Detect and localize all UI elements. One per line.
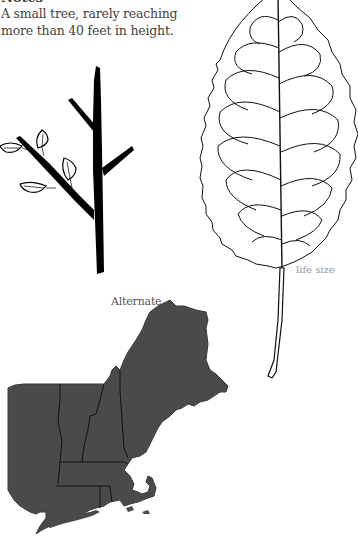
twig-illustration: Alternate. — [0, 60, 180, 290]
notes-text: A small tree, rarely reaching more than … — [1, 5, 201, 39]
leaf-caption: life size — [296, 264, 335, 275]
map-icon — [0, 290, 260, 536]
twig-icon — [0, 60, 180, 290]
range-map — [0, 290, 260, 536]
